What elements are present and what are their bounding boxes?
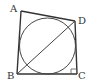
side-ab (17, 11, 21, 74)
side-da (21, 11, 75, 21)
vertex-label-a: A (10, 4, 17, 14)
vertex-label-b: B (7, 71, 14, 81)
vertex-label-d: D (78, 16, 86, 26)
geometry-figure: A D B C (0, 0, 87, 81)
vertex-label-c: C (78, 71, 86, 81)
right-angle-marker-c (71, 69, 77, 74)
